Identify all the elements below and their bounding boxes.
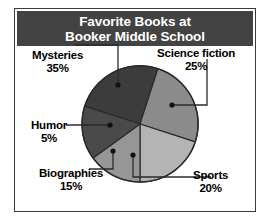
pie-label-biographies: Biographies 15% xyxy=(39,167,103,192)
dot-biographies xyxy=(110,148,115,153)
dot-science-fiction xyxy=(169,102,174,107)
dot-sports xyxy=(130,152,135,157)
pie-label-sports-percent: 20% xyxy=(193,182,228,195)
pie-label-biographies-percent: 15% xyxy=(39,180,103,193)
pie-label-science-fiction: Science fiction 25% xyxy=(157,47,235,72)
dot-humor xyxy=(107,122,112,127)
pie-label-sports: Sports 20% xyxy=(193,169,228,194)
pie-label-humor: Humor 5% xyxy=(31,119,67,144)
pie-label-mysteries-percent: 35% xyxy=(32,62,83,75)
chart-figure: Favorite Books at Booker Middle School xyxy=(14,8,256,212)
pie-label-humor-percent: 5% xyxy=(31,132,67,145)
pie-label-science-fiction-name: Science fiction xyxy=(157,47,235,59)
pie-label-mysteries: Mysteries 35% xyxy=(32,49,83,74)
pie-label-biographies-name: Biographies xyxy=(39,167,103,179)
pie-label-science-fiction-percent: 25% xyxy=(157,60,235,73)
pie-label-sports-name: Sports xyxy=(193,169,228,181)
pie-label-humor-name: Humor xyxy=(31,119,67,131)
dot-mysteries xyxy=(115,82,120,87)
pie-label-mysteries-name: Mysteries xyxy=(32,49,83,61)
